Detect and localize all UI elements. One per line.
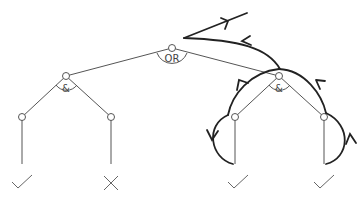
and-label: & <box>275 83 283 94</box>
edge-or-left <box>66 48 172 76</box>
leaf-node <box>232 114 239 121</box>
check-icon <box>12 175 32 188</box>
edge <box>66 76 111 117</box>
and-node <box>63 73 70 80</box>
and-label: & <box>62 83 70 94</box>
leaf-node <box>108 114 115 121</box>
check-icon <box>314 175 334 188</box>
edge <box>22 76 66 117</box>
and-node <box>276 73 283 80</box>
check-icon <box>228 175 248 188</box>
leaf-node <box>19 114 26 121</box>
traversal-path <box>184 13 356 164</box>
and-or-tree-diagram: OR & & <box>0 0 364 203</box>
or-node <box>169 45 176 52</box>
leaf-node <box>321 114 328 121</box>
edge <box>235 76 279 117</box>
cross-icon <box>104 176 118 190</box>
or-label: OR <box>165 53 180 64</box>
